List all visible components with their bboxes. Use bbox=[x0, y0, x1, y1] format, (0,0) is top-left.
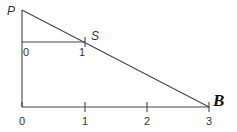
point-s-label: S bbox=[91, 29, 99, 43]
point-b-label: B bbox=[212, 91, 224, 110]
point-p-label: P bbox=[7, 4, 15, 18]
bottom-tick-label-3: 3 bbox=[206, 115, 212, 127]
line-p-to-b bbox=[22, 10, 209, 107]
diagram-canvas: P S B 0 1 0 1 2 3 bbox=[0, 0, 237, 132]
bottom-tick-label-2: 2 bbox=[144, 115, 150, 127]
bottom-tick-label-1: 1 bbox=[82, 115, 88, 127]
upper-tick-label-1: 1 bbox=[79, 46, 85, 58]
upper-tick-label-0: 0 bbox=[23, 46, 29, 58]
bottom-tick-label-0: 0 bbox=[19, 115, 25, 127]
